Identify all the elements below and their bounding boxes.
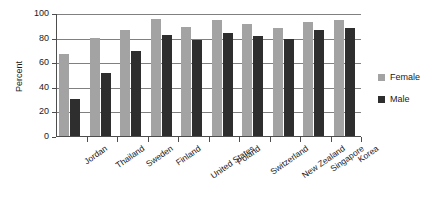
- x-axis-label: Poland: [235, 144, 262, 167]
- x-axis-tick-mark: [300, 137, 301, 142]
- x-axis-tick-mark: [270, 137, 271, 142]
- x-axis-tick-mark: [178, 137, 179, 142]
- x-axis-label: Sweden: [145, 144, 175, 169]
- bar-group: [240, 14, 271, 136]
- legend-swatch-icon: [378, 74, 385, 81]
- bar-male: [162, 35, 172, 136]
- bar-group: [301, 14, 332, 136]
- bar-female: [59, 54, 69, 136]
- x-axis-tick-mark: [361, 137, 362, 142]
- legend-label: Female: [390, 73, 420, 82]
- bar-female: [120, 30, 130, 136]
- y-axis-title: Percent: [14, 76, 24, 92]
- legend-item-male[interactable]: Male: [378, 95, 420, 104]
- bar-male: [101, 73, 111, 136]
- bar-female: [303, 22, 313, 136]
- x-axis-tick-mark: [209, 137, 210, 142]
- y-axis-tick-label: 0: [44, 132, 49, 141]
- y-axis-tick-label: 60: [39, 58, 49, 67]
- bar-male: [192, 40, 202, 136]
- x-axis-tick-mark: [331, 137, 332, 142]
- bar-group: [88, 14, 119, 136]
- x-axis-label: Finland: [175, 144, 203, 167]
- legend-swatch-icon: [378, 96, 385, 103]
- bar-group: [149, 14, 180, 136]
- bar-group: [179, 14, 210, 136]
- y-axis-tick-mark: [52, 39, 56, 40]
- bar-male: [345, 28, 355, 136]
- bar-group: [271, 14, 302, 136]
- chart-legend: FemaleMale: [378, 73, 420, 117]
- bar-female: [181, 27, 191, 136]
- bar-female: [242, 24, 252, 136]
- plot-area: [56, 14, 361, 137]
- bar-female: [273, 28, 283, 136]
- x-axis-tick-mark: [117, 137, 118, 142]
- x-axis-label: Thailand: [114, 144, 146, 170]
- bar-male: [314, 30, 324, 136]
- bar-male: [70, 99, 80, 136]
- y-axis-tick-label: 100: [34, 9, 49, 18]
- bar-male: [253, 36, 263, 136]
- x-axis-tick-mark: [148, 137, 149, 142]
- x-axis-tick-mark: [239, 137, 240, 142]
- x-axis-tick-mark: [87, 137, 88, 142]
- bar-female: [90, 38, 100, 136]
- x-axis-label: Jordan: [83, 144, 109, 166]
- bar-group: [57, 14, 88, 136]
- bar-chart: Percent 020406080100 JordanThailandSwede…: [0, 0, 441, 216]
- bar-female: [151, 19, 161, 136]
- y-axis-tick-label: 20: [39, 107, 49, 116]
- legend-item-female[interactable]: Female: [378, 73, 420, 82]
- y-axis-tick-label: 80: [39, 34, 49, 43]
- y-axis-tick-mark: [52, 14, 56, 15]
- bar-group: [332, 14, 363, 136]
- legend-label: Male: [390, 95, 410, 104]
- bar-male: [284, 39, 294, 136]
- bar-male: [131, 51, 141, 136]
- y-axis-tick-mark: [52, 112, 56, 113]
- bar-female: [212, 20, 222, 136]
- y-axis-tick-label: 40: [39, 83, 49, 92]
- bar-female: [334, 20, 344, 136]
- bar-group: [210, 14, 241, 136]
- y-axis-tick-mark: [52, 88, 56, 89]
- bar-group: [118, 14, 149, 136]
- y-axis-tick-mark: [52, 63, 56, 64]
- bar-male: [223, 33, 233, 136]
- y-axis-tick-mark: [52, 137, 56, 138]
